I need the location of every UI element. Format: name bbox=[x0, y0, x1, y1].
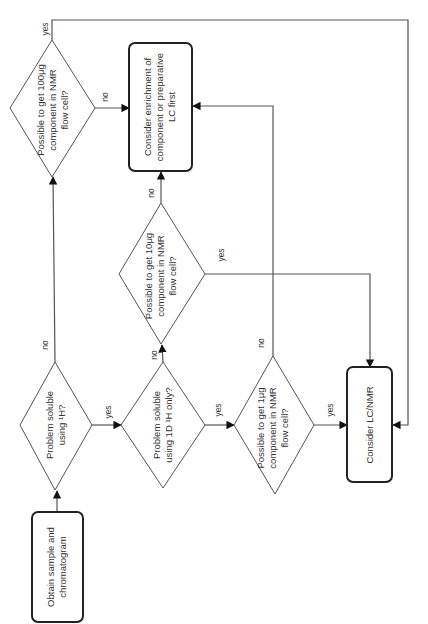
node-soluble-1d: Problem soluble using 1D ¹H only? bbox=[121, 362, 205, 488]
label-1ug-no: no bbox=[256, 338, 266, 348]
label-soluble-1h-yes: yes bbox=[103, 405, 113, 418]
label-10ug-yes: yes bbox=[216, 248, 226, 261]
node-get-100ug-line2: component in NMR bbox=[47, 69, 58, 150]
node-get-10ug: Possible to get 10μg component in NMR fl… bbox=[119, 203, 205, 344]
node-soluble-1d-line2: using 1D ¹H only? bbox=[163, 387, 174, 463]
node-get-1ug-line2: component in NMR bbox=[267, 387, 278, 468]
node-start: Obtain sample and chromatogram bbox=[32, 512, 83, 622]
node-enrichment-line3: LC first bbox=[166, 92, 177, 122]
label-100ug-no: no bbox=[100, 92, 110, 102]
label-10ug-no: no bbox=[146, 188, 156, 198]
label-100ug-yes: yes bbox=[40, 22, 50, 35]
node-get-10ug-line1: Possible to get 10μg bbox=[143, 233, 154, 319]
node-enrichment-line1: Consider enrichment of bbox=[142, 58, 153, 157]
node-get-100ug: Possible to get 100μg component in NMR f… bbox=[10, 40, 95, 177]
node-soluble-1d-line1: Problem soluble bbox=[151, 391, 162, 459]
edge-soluble-1d-no bbox=[162, 345, 163, 362]
edge-10ug-yes bbox=[205, 274, 370, 367]
label-soluble-1h-no: no bbox=[40, 340, 50, 350]
node-get-1ug-line1: Possible to get 1μg bbox=[255, 388, 266, 469]
node-soluble-1h-line2: using ¹H? bbox=[56, 405, 67, 446]
edge-1ug-no bbox=[193, 106, 273, 356]
node-get-10ug-line3: flow cell? bbox=[167, 256, 178, 295]
node-start-line1: Obtain sample and bbox=[45, 527, 56, 607]
node-enrichment: Consider enrichment of component or prep… bbox=[129, 43, 192, 171]
node-soluble-1h: Problem soluble using ¹H? bbox=[20, 362, 92, 490]
edge-100ug-yes bbox=[52, 20, 408, 425]
label-soluble-1d-yes: yes bbox=[213, 403, 223, 416]
node-lcnmr-line1: Consider LC/NMR bbox=[364, 386, 375, 463]
label-1ug-yes: yes bbox=[325, 403, 335, 416]
edge-soluble-1h-no bbox=[53, 177, 55, 362]
node-get-10ug-line2: component in NMR bbox=[155, 235, 166, 316]
node-get-1ug-line3: flow cell? bbox=[279, 408, 290, 447]
node-lcnmr: Consider LC/NMR bbox=[347, 367, 392, 482]
node-get-1ug: Possible to get 1μg component in NMR flo… bbox=[234, 356, 314, 494]
node-enrichment-line2: component or preparative bbox=[154, 53, 165, 161]
node-get-100ug-line3: flow cell? bbox=[59, 90, 70, 129]
label-soluble-1d-no: no bbox=[149, 350, 159, 360]
node-get-100ug-line1: Possible to get 100μg bbox=[35, 64, 46, 156]
flowchart-canvas: Obtain sample and chromatogram Problem s… bbox=[0, 0, 428, 624]
node-soluble-1h-line1: Problem soluble bbox=[44, 391, 55, 459]
node-start-line2: chromatogram bbox=[57, 536, 68, 597]
